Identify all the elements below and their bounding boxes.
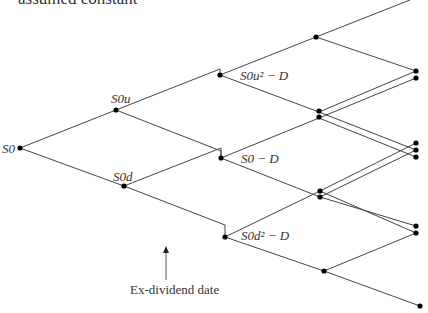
node: [321, 268, 326, 273]
node-exdiv-down: [222, 234, 227, 239]
binomial-tree-diagram: S0 S0u S0d S0u² − D S0 − D S0d² − D Ex-d…: [0, 0, 428, 313]
ex-dividend-annotation: Ex-dividend date: [130, 246, 219, 297]
node: [417, 303, 422, 308]
label-root: S0: [2, 141, 16, 156]
tree-edges: [20, 0, 420, 306]
node-labels: S0 S0u S0d S0u² − D S0 − D S0d² − D: [2, 68, 290, 243]
node: [413, 154, 418, 159]
label-exdiv-mid: S0 − D: [241, 151, 279, 166]
node-exdiv-up: [217, 72, 222, 77]
label-exdiv-down: S0d² − D: [241, 228, 290, 243]
node: [413, 68, 418, 73]
node-down: [121, 183, 126, 188]
arrow-up-icon: [163, 246, 169, 253]
node: [316, 108, 321, 113]
node-up: [113, 107, 118, 112]
node: [413, 75, 418, 80]
label-down: S0d: [113, 169, 133, 184]
node: [413, 223, 418, 228]
node: [316, 114, 321, 119]
node: [317, 194, 322, 199]
label-up: S0u: [111, 91, 131, 106]
annotation-label: Ex-dividend date: [130, 282, 219, 297]
node: [413, 147, 418, 152]
node: [413, 140, 418, 145]
tree-nodes: [17, 34, 422, 308]
node: [317, 188, 322, 193]
node-root: [17, 145, 22, 150]
label-exdiv-up: S0u² − D: [240, 68, 289, 83]
node-exdiv-mid: [218, 155, 223, 160]
node: [313, 34, 318, 39]
node: [413, 230, 418, 235]
